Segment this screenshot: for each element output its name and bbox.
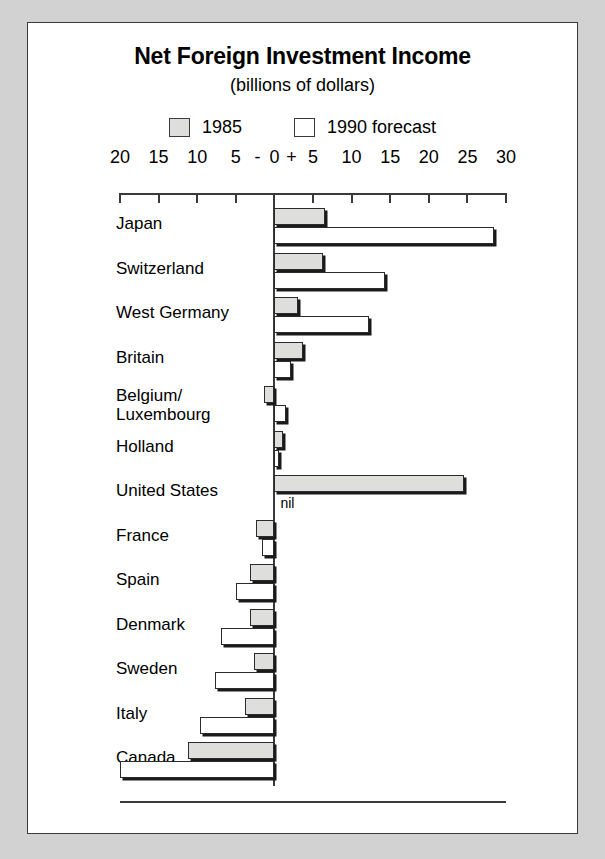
chart-card: Net Foreign Investment Income (billions … xyxy=(27,22,578,834)
axis-tick-label: 25 xyxy=(457,147,477,168)
bar-1990 xyxy=(215,672,274,689)
category-label: France xyxy=(116,526,169,545)
category-label: Switzerland xyxy=(116,259,204,278)
bar-1990 xyxy=(274,272,384,289)
bar-1985 xyxy=(250,609,275,626)
axis-tick-label: 5 xyxy=(231,147,241,168)
axis-tick-label: 30 xyxy=(496,147,516,168)
bar-1990 xyxy=(120,761,274,778)
axis-tick-label: 15 xyxy=(380,147,400,168)
bar-1985 xyxy=(256,520,275,537)
axis-positive-sign: + xyxy=(286,147,297,168)
axis-tick-mark xyxy=(466,193,468,203)
bar-1985 xyxy=(274,475,464,492)
category-label: Britain xyxy=(116,348,164,367)
axis-negative-sign: - xyxy=(254,147,260,168)
category-label: Holland xyxy=(116,437,174,456)
axis-tick-label: 5 xyxy=(308,147,318,168)
axis-tick-mark xyxy=(196,193,198,203)
category-label: West Germany xyxy=(116,303,229,322)
axis-tick-label-row: 2015105051015202530-+ xyxy=(28,147,579,169)
chart-bottom-rule xyxy=(120,801,506,803)
bar-1985 xyxy=(274,208,324,225)
category-label: Denmark xyxy=(116,615,185,634)
axis-tick-label: 20 xyxy=(110,147,130,168)
category-label: Japan xyxy=(116,214,162,233)
axis-tick-label: 0 xyxy=(269,147,279,168)
axis-tick-mark xyxy=(119,193,121,203)
axis-tick-mark xyxy=(505,193,507,203)
axis-tick-label: 20 xyxy=(419,147,439,168)
bar-1990 xyxy=(274,405,286,422)
bar-1990 xyxy=(274,450,279,467)
bar-1985 xyxy=(245,698,274,715)
nil-annotation: nil xyxy=(280,495,294,511)
axis-tick-mark xyxy=(351,193,353,203)
category-label: Sweden xyxy=(116,659,177,678)
bar-1985 xyxy=(250,564,274,581)
bar-1990 xyxy=(274,361,290,378)
axis-tick-label: 10 xyxy=(342,147,362,168)
bar-1985 xyxy=(274,253,323,270)
bar-1985 xyxy=(274,297,297,314)
axis-tick-mark xyxy=(428,193,430,203)
bar-1990 xyxy=(262,539,274,556)
category-label: Belgium/ Luxembourg xyxy=(116,386,211,424)
axis-tick-mark xyxy=(235,193,237,203)
bar-1990 xyxy=(200,717,274,734)
category-label: Italy xyxy=(116,704,147,723)
axis-tick-mark xyxy=(312,193,314,203)
bar-1985 xyxy=(274,431,282,448)
bar-1985 xyxy=(188,742,274,759)
bar-1990 xyxy=(236,583,275,600)
category-label: United States xyxy=(116,481,218,500)
chart-plot-area: 2015105051015202530-+JapanSwitzerlandWes… xyxy=(28,23,579,835)
axis-tick-label: 10 xyxy=(187,147,207,168)
bar-1990 xyxy=(274,227,494,244)
bar-1985 xyxy=(254,653,274,670)
axis-tick-label: 15 xyxy=(149,147,169,168)
bar-1985 xyxy=(264,386,274,403)
category-label: Spain xyxy=(116,570,159,589)
axis-tick-mark xyxy=(158,193,160,203)
bar-1990 xyxy=(274,316,368,333)
bar-1985 xyxy=(274,342,303,359)
axis-tick-mark xyxy=(389,193,391,203)
bar-1990 xyxy=(221,628,274,645)
